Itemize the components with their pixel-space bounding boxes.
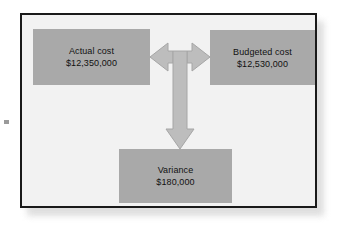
- figure-inner: Actual cost $12,350,000 Budgeted cost $1…: [22, 15, 315, 206]
- arrow-down-shaft: [166, 51, 194, 149]
- node-budgeted-cost-value: $12,530,000: [237, 58, 288, 70]
- node-variance: Variance $180,000: [119, 149, 232, 203]
- arrow-head-right: [187, 43, 210, 71]
- page-margin-mark: [4, 120, 9, 124]
- figure-frame: Actual cost $12,350,000 Budgeted cost $1…: [20, 13, 317, 208]
- node-budgeted-cost: Budgeted cost $12,530,000: [210, 30, 315, 85]
- figure-canvas: Actual cost $12,350,000 Budgeted cost $1…: [0, 0, 359, 233]
- node-actual-cost: Actual cost $12,350,000: [33, 29, 150, 85]
- node-actual-cost-value: $12,350,000: [66, 57, 117, 69]
- node-actual-cost-label: Actual cost: [69, 45, 114, 57]
- node-variance-value: $180,000: [156, 176, 194, 188]
- arrow-head-left: [150, 43, 173, 71]
- node-budgeted-cost-label: Budgeted cost: [233, 46, 292, 58]
- node-variance-label: Variance: [158, 164, 194, 176]
